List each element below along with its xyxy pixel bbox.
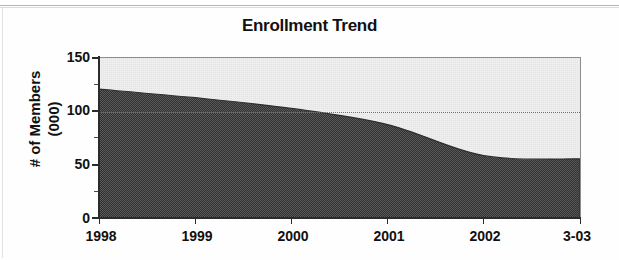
scan-artifact-line-secondary xyxy=(0,7,619,8)
chart-title: Enrollment Trend xyxy=(0,16,619,36)
gridline-value-100 xyxy=(99,112,580,113)
enrollment-trend-chart: Enrollment Trend # of Members (000) 150 … xyxy=(0,0,619,260)
x-tick-label-2001: 2001 xyxy=(373,228,404,244)
x-tick-mark-1999 xyxy=(195,217,196,224)
x-tick-label-2002: 2002 xyxy=(469,228,500,244)
y-tick-label-50: 50 xyxy=(34,157,90,171)
y-tick-label-0: 0 xyxy=(34,211,90,225)
x-tick-label-1999: 1999 xyxy=(181,228,212,244)
x-tick-label-3-03: 3-03 xyxy=(563,228,591,244)
area-series-enrollment xyxy=(99,58,580,219)
x-tick-label-1998: 1998 xyxy=(85,228,116,244)
y-axis-tick-labels: 150 100 50 0 xyxy=(28,0,90,260)
scan-artifact-line xyxy=(0,5,619,6)
x-tick-mark-2000 xyxy=(291,217,292,224)
x-tick-mark-1998 xyxy=(99,217,100,224)
y-tick-label-100: 100 xyxy=(34,103,90,117)
x-axis-line xyxy=(98,217,581,219)
x-tick-mark-3-03 xyxy=(580,217,581,224)
y-tick-label-150: 150 xyxy=(34,50,90,64)
y-axis-line xyxy=(98,56,100,219)
x-tick-mark-2001 xyxy=(387,217,388,224)
scan-artifact-edge xyxy=(2,8,3,258)
x-tick-label-2000: 2000 xyxy=(277,228,308,244)
plot-area xyxy=(99,57,581,219)
x-tick-mark-2002 xyxy=(483,217,484,224)
